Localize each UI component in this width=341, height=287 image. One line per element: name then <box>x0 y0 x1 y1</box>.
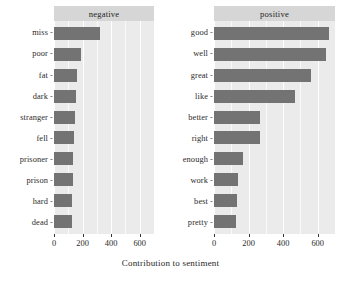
facet-positive: good- well- great- like- better- right- … <box>160 6 341 234</box>
y-tick-text: well <box>193 50 208 58</box>
y-tick-text: fat <box>39 72 48 80</box>
y-tick-label: work- <box>171 171 214 192</box>
bar-row <box>214 107 335 128</box>
x-tick-label: 600 <box>311 239 324 248</box>
bar-row <box>214 169 335 190</box>
bar <box>54 173 73 186</box>
bar <box>214 215 236 228</box>
y-tick-text: work <box>190 177 208 185</box>
y-tick-label: prisoner- <box>0 150 54 171</box>
facet-negative: miss- poor- fat- dark- stranger- fell- p… <box>0 6 160 234</box>
plot-panel-negative <box>54 21 154 234</box>
bar <box>214 111 260 124</box>
y-tick-text: stranger <box>20 114 48 122</box>
x-axis-spacer-left <box>0 234 54 256</box>
x-axis-ticks-positive: 0200400600 <box>214 234 341 256</box>
facet-container: miss- poor- fat- dark- stranger- fell- p… <box>0 6 341 234</box>
x-axis-ticks-negative: 0200400600 <box>54 234 160 256</box>
y-tick-label: fell- <box>0 128 54 149</box>
x-tick-mark <box>249 234 250 237</box>
y-tick-label: poor- <box>0 44 54 65</box>
x-tick-mark <box>111 234 112 237</box>
y-tick-text: pretty <box>188 219 208 227</box>
plot-panel-positive <box>214 21 335 234</box>
y-tick-label: hard- <box>0 192 54 213</box>
bar <box>214 194 237 207</box>
bar-row <box>54 44 154 65</box>
bar <box>54 152 73 165</box>
y-tick-label: enough- <box>171 150 214 171</box>
y-tick-label: stranger- <box>0 107 54 128</box>
y-tick-label: prison- <box>0 171 54 192</box>
bar <box>54 215 72 228</box>
y-tick-text: poor <box>32 50 48 58</box>
bar <box>54 90 76 103</box>
facet-strip-negative: negative <box>54 6 154 21</box>
y-tick-label: miss- <box>0 23 54 44</box>
x-tick-mark <box>318 234 319 237</box>
y-axis-labels-negative: miss- poor- fat- dark- stranger- fell- p… <box>0 6 54 234</box>
y-tick-text: right <box>192 135 208 143</box>
bar <box>54 27 100 40</box>
y-tick-text: prison <box>26 177 48 185</box>
y-axis-labels-positive: good- well- great- like- better- right- … <box>160 6 214 234</box>
x-tick-mark <box>140 234 141 237</box>
x-axis: 0200400600 0200400600 <box>0 234 341 256</box>
x-tick-label: 600 <box>133 239 146 248</box>
y-tick-text: best <box>194 198 208 206</box>
panel-wrapper-positive: positive <box>214 6 341 234</box>
y-tick-text: enough <box>183 156 208 164</box>
bar-row <box>214 65 335 86</box>
y-tick-label: well- <box>171 44 214 65</box>
y-tick-label: pretty- <box>171 213 214 234</box>
sentiment-contribution-chart: miss- poor- fat- dark- stranger- fell- p… <box>0 0 341 287</box>
x-tick-mark <box>83 234 84 237</box>
bar-row <box>214 44 335 65</box>
y-tick-text: fell <box>36 135 48 143</box>
y-tick-label: best- <box>171 192 214 213</box>
y-tick-text: better <box>188 114 208 122</box>
y-tick-label: right- <box>171 128 214 149</box>
bar <box>214 173 238 186</box>
panel-wrapper-negative: negative <box>54 6 160 234</box>
bar <box>214 48 326 61</box>
bar <box>214 90 295 103</box>
facet-strip-positive: positive <box>214 6 335 21</box>
x-tick-mark <box>54 234 55 237</box>
bar <box>214 131 260 144</box>
bar-row <box>54 86 154 107</box>
bar-row <box>54 23 154 44</box>
bar-row <box>214 128 335 149</box>
bar-row <box>214 190 335 211</box>
x-tick-label: 200 <box>242 239 255 248</box>
bar <box>54 194 72 207</box>
y-tick-text: miss <box>32 29 48 37</box>
y-tick-text: good <box>191 29 208 37</box>
bar-row <box>54 148 154 169</box>
x-tick-label: 0 <box>212 239 216 248</box>
y-tick-label: like- <box>171 86 214 107</box>
y-tick-text: dark <box>33 93 48 101</box>
y-tick-text: prisoner <box>20 156 48 164</box>
y-tick-label: dark- <box>0 86 54 107</box>
y-tick-label: better- <box>171 107 214 128</box>
bar <box>54 111 75 124</box>
y-tick-label: good- <box>171 23 214 44</box>
bar-row <box>54 190 154 211</box>
x-tick-label: 400 <box>105 239 118 248</box>
y-tick-text: like <box>195 93 208 101</box>
bar-row <box>54 169 154 190</box>
bar <box>214 27 329 40</box>
y-tick-text: great <box>191 72 208 80</box>
bar-group-positive <box>214 21 335 234</box>
x-axis-spacer-right <box>160 234 214 256</box>
y-tick-text: hard <box>33 198 48 206</box>
x-tick-label: 0 <box>52 239 56 248</box>
bar-row <box>54 65 154 86</box>
bar-group-negative <box>54 21 154 234</box>
x-tick-label: 200 <box>76 239 89 248</box>
bar-row <box>214 86 335 107</box>
y-tick-label: great- <box>171 65 214 86</box>
y-tick-text: dead <box>32 219 48 227</box>
bar-row <box>214 148 335 169</box>
